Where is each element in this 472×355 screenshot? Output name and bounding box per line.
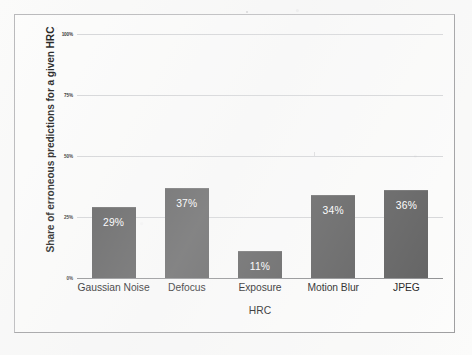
bar-group[interactable]: 34%Motion Blur: [311, 34, 355, 278]
bar[interactable]: 34%: [311, 195, 355, 278]
y-axis-title: Share of erroneous predictions for a giv…: [45, 25, 56, 255]
y-axis-tick-label: 0%: [67, 276, 73, 281]
bar[interactable]: 37%: [165, 188, 209, 278]
bar-group[interactable]: 29%Gaussian Noise: [92, 34, 136, 278]
y-axis-tick-label: 75%: [64, 93, 73, 98]
bar-value-label: 11%: [238, 261, 282, 272]
bar-group[interactable]: 37%Defocus: [165, 34, 209, 278]
bar-value-label: 29%: [92, 217, 136, 228]
x-axis-tick-label: Defocus: [168, 282, 205, 293]
bar-group[interactable]: 36%JPEG: [384, 34, 428, 278]
scan-speck: [246, 11, 248, 13]
x-axis-line: [77, 278, 443, 279]
x-axis-tick-label: Motion Blur: [307, 282, 359, 293]
bar[interactable]: 29%: [92, 207, 136, 278]
x-axis-tick-label: JPEG: [393, 282, 420, 293]
bar-group[interactable]: 11%Exposure: [238, 34, 282, 278]
x-axis-tick-label: Exposure: [238, 282, 281, 293]
y-axis-tick-label: 100%: [62, 32, 73, 37]
y-axis-tick-label: 50%: [64, 154, 73, 159]
plot-area: 0%25%50%75%100% 29%Gaussian Noise37%Defo…: [77, 34, 443, 278]
bars-layer: 29%Gaussian Noise37%Defocus11%Exposure34…: [77, 34, 443, 278]
bar-value-label: 36%: [384, 200, 428, 211]
y-axis-tick-label: 25%: [64, 215, 73, 220]
bar-value-label: 37%: [165, 198, 209, 209]
x-axis-tick-label: Gaussian Noise: [78, 282, 150, 293]
bar-value-label: 34%: [311, 205, 355, 216]
bar[interactable]: 36%: [384, 190, 428, 278]
x-axis-title: HRC: [77, 305, 443, 316]
bar-chart: Share of erroneous predictions for a giv…: [14, 14, 455, 333]
bar[interactable]: 11%: [238, 251, 282, 278]
